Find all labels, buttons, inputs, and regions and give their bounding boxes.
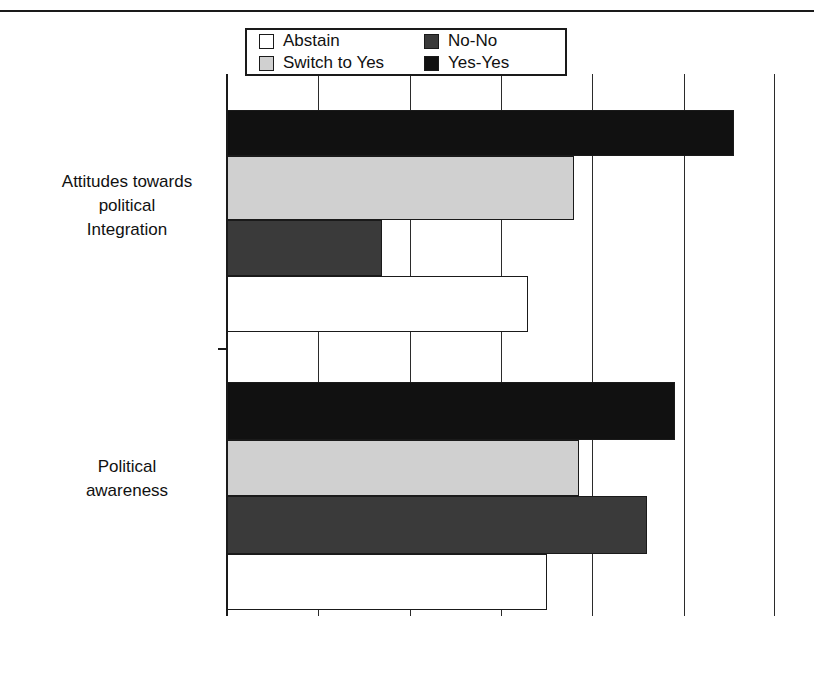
legend-item-no-no: No-No <box>424 31 581 51</box>
category-label-political-awareness: Political awareness <box>38 455 216 503</box>
bar-attitudes-switch-to-yes <box>227 156 574 220</box>
legend-item-switch-to-yes: Switch to Yes <box>259 53 424 73</box>
legend-label-abstain: Abstain <box>283 31 340 51</box>
yes-yes-swatch-icon <box>424 56 439 71</box>
top-divider-rule <box>0 10 814 12</box>
bar-attitudes-yes-yes <box>227 110 734 156</box>
bar-political-awareness-no-no <box>227 496 647 554</box>
legend-item-yes-yes: Yes-Yes <box>424 53 581 73</box>
legend-label-switch-to-yes: Switch to Yes <box>283 53 384 73</box>
plot-area: 0.0 1.0 2.0 3.0 4.0 5.0 6.0 <box>227 74 775 616</box>
legend-label-yes-yes: Yes-Yes <box>448 53 509 73</box>
chart-page: Attitudes towards political Integration … <box>0 0 814 684</box>
legend-item-abstain: Abstain <box>259 31 424 51</box>
bar-political-awareness-switch-to-yes <box>227 440 579 496</box>
bar-attitudes-no-no <box>227 220 382 276</box>
category-divider-tick <box>218 348 227 350</box>
legend-label-no-no: No-No <box>448 31 497 51</box>
switch-to-yes-swatch-icon <box>259 56 274 71</box>
chart-legend: Abstain No-No Switch to Yes Yes-Yes <box>245 28 567 76</box>
category-label-attitudes-towards-political-integration: Attitudes towards political Integration <box>38 170 216 242</box>
bar-attitudes-abstain <box>227 276 528 332</box>
abstain-swatch-icon <box>259 34 274 49</box>
no-no-swatch-icon <box>424 34 439 49</box>
bar-political-awareness-yes-yes <box>227 382 675 440</box>
plot-right-border <box>774 74 775 616</box>
bar-political-awareness-abstain <box>227 554 547 610</box>
